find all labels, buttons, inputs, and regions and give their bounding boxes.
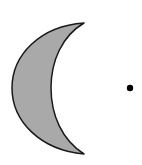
crescent-diagram (0, 0, 142, 165)
crescent-shape (12, 23, 84, 154)
dot (127, 85, 133, 91)
